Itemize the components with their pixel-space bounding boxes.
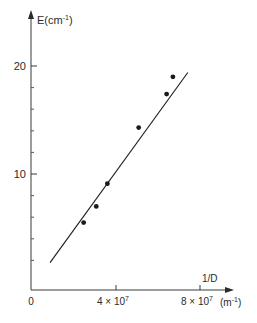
data-point [171,74,176,79]
x-tick-label: 0 [28,296,34,307]
data-point [94,204,99,209]
chart: 1020 04 × 1078 × 107 E(cm-1) 1/D (m-1) [0,0,257,323]
x-axis-arrow-icon [225,287,234,293]
x-axis-label: 1/D [202,273,218,284]
data-point [136,125,141,130]
x-tick-label: 4 × 107 [97,295,129,307]
x-tick-label: 8 × 107 [181,295,213,307]
series [50,72,188,262]
y-tick-label: 20 [14,60,26,72]
x-axis-unit: (m-1) [220,296,241,308]
y-axis-label: E(cm-1) [37,14,73,26]
data-point [81,220,86,225]
y-ticks: 1020 [14,60,37,260]
y-tick-label: 10 [14,168,26,180]
data-point [164,92,169,97]
fit-line [50,72,188,262]
y-axis-arrow-icon [28,10,34,19]
x-ticks: 04 × 1078 × 107 [28,285,213,307]
